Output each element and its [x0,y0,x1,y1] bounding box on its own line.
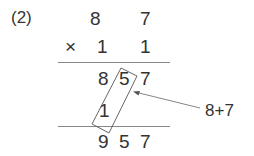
arrow-shaft [135,92,200,108]
arrow-head-icon [133,91,140,96]
highlight-box [92,68,137,133]
diagram-lines [0,0,254,156]
